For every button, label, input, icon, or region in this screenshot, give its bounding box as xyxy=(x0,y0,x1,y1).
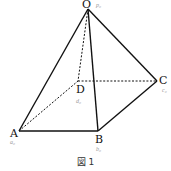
vertex-sublabel-C: c₀ xyxy=(162,87,167,93)
figure-caption: 図 1 xyxy=(0,155,171,168)
edge-OA xyxy=(19,9,88,131)
vertex-sublabel-A: a₀ xyxy=(10,139,15,145)
edge-AD xyxy=(19,81,78,131)
vertex-label-A: A xyxy=(10,128,18,139)
edge-BC xyxy=(98,81,157,131)
pyramid-diagram xyxy=(0,0,171,171)
edge-OB xyxy=(88,9,98,131)
vertex-label-B: B xyxy=(95,134,103,145)
edge-OC xyxy=(88,9,157,81)
edge-OD xyxy=(78,9,88,81)
vertex-sublabel-O: p₀ xyxy=(96,2,101,8)
vertex-label-D: D xyxy=(76,84,85,95)
vertex-label-C: C xyxy=(159,75,167,86)
vertex-sublabel-D: d₀ xyxy=(76,98,81,104)
vertex-sublabel-B: b₀ xyxy=(96,146,101,152)
pyramid-figure: O p₀ D d₀ C c₀ A a₀ B b₀ 図 1 xyxy=(0,0,171,171)
vertex-label-O: O xyxy=(82,0,91,10)
